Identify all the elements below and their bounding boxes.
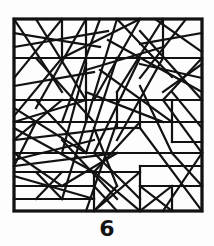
figure-caption: 6 [0, 216, 214, 242]
figure-container: 6 [0, 0, 214, 246]
line-segment-group [14, 19, 202, 211]
random-line-pattern-figure [0, 0, 214, 246]
